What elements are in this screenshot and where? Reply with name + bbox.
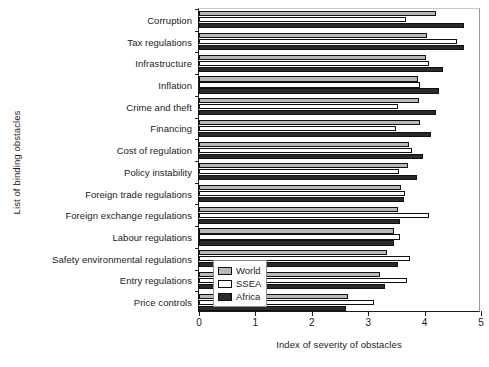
legend-entry-africa: Africa (218, 290, 261, 303)
bar-africa (199, 175, 417, 180)
bar-ssea (199, 234, 400, 239)
bar-ssea (199, 61, 429, 66)
y-axis-tick (195, 118, 200, 119)
y-axis-tick-label: Safety environmental regulations (52, 253, 192, 264)
y-axis-tick-label: Policy instability (124, 166, 192, 177)
category-row: Financing (199, 118, 479, 140)
bar-world (199, 11, 436, 16)
y-axis-tick (195, 270, 200, 271)
y-axis-tick-label: Labour regulations (112, 231, 192, 242)
bar-world (199, 33, 427, 38)
category-row: Labour regulations (199, 226, 479, 248)
legend-entry-ssea: SSEA (218, 277, 261, 290)
bar-africa (199, 219, 400, 224)
x-axis-tick-label: 3 (365, 317, 371, 328)
bar-ssea (199, 169, 399, 174)
y-axis-tick (195, 161, 200, 162)
bar-world (199, 142, 409, 147)
legend-label: Africa (236, 291, 260, 302)
bar-ssea (199, 213, 429, 218)
x-axis-tick-label: 2 (309, 317, 315, 328)
category-row: Tax regulations (199, 31, 479, 53)
bar-ssea (199, 148, 412, 153)
y-axis-tick-label: Inflation (158, 79, 192, 90)
bar-world (199, 185, 401, 190)
legend-label: SSEA (236, 278, 261, 289)
bar-world (199, 55, 426, 60)
category-row: Foreign exchange regulations (199, 204, 479, 226)
y-axis-tick-label: Crime and theft (126, 101, 192, 112)
y-axis-tick (195, 74, 200, 75)
bar-africa (199, 154, 423, 159)
bar-world (199, 228, 394, 233)
x-axis-tick (368, 311, 369, 316)
y-axis-tick-label: Financing (150, 123, 192, 134)
category-row: Inflation (199, 74, 479, 96)
legend-swatch-africa-icon (218, 293, 232, 301)
category-row: Foreign trade regulations (199, 183, 479, 205)
bar-ssea (199, 126, 396, 131)
bar-africa (199, 67, 443, 72)
bar-world (199, 250, 387, 255)
y-axis-tick-label: Price controls (134, 297, 192, 308)
legend-swatch-world-icon (218, 267, 232, 275)
y-axis-tick-label: Foreign exchange regulations (65, 210, 192, 221)
x-axis-tick-label: 0 (196, 317, 202, 328)
x-axis-tick (312, 311, 313, 316)
x-axis-tick (199, 311, 200, 316)
bar-africa (199, 88, 439, 93)
x-axis-tick-label: 1 (253, 317, 259, 328)
bar-world (199, 120, 420, 125)
category-row: Crime and theft (199, 96, 479, 118)
bar-world (199, 98, 419, 103)
bar-ssea (199, 39, 457, 44)
category-row: Infrastructure (199, 52, 479, 74)
chart-figure: List of binding obstacles CorruptionTax … (0, 0, 489, 367)
y-axis-tick (195, 96, 200, 97)
x-axis-tick-label: 4 (422, 317, 428, 328)
bar-world (199, 163, 408, 168)
y-axis-tick (195, 52, 200, 53)
bar-ssea (199, 82, 420, 87)
category-row: Policy instability (199, 161, 479, 183)
bar-africa (199, 45, 464, 50)
y-axis-tick (195, 204, 200, 205)
y-axis-tick (195, 248, 200, 249)
y-axis-tick-label: Cost of regulation (117, 145, 192, 156)
bar-africa (199, 110, 436, 115)
y-axis-title: List of binding obstacles (11, 93, 22, 233)
y-axis-tick-label: Corruption (147, 14, 192, 25)
bar-ssea (199, 17, 406, 22)
legend-entry-world: World (218, 264, 261, 277)
chart-legend: WorldSSEAAfrica (213, 260, 267, 307)
y-axis-tick (195, 31, 200, 32)
bar-africa (199, 132, 431, 137)
x-axis-tick (425, 311, 426, 316)
y-axis-tick-label: Infrastructure (135, 58, 192, 69)
bar-world (199, 76, 418, 81)
y-axis-tick (195, 183, 200, 184)
bar-ssea (199, 191, 405, 196)
y-axis-tick (195, 139, 200, 140)
y-axis-tick-label: Entry regulations (120, 275, 192, 286)
bar-africa (199, 197, 404, 202)
y-axis-tick (195, 9, 200, 10)
bar-world (199, 207, 398, 212)
bar-africa (199, 23, 464, 28)
bar-africa (199, 240, 394, 245)
x-axis-title: Index of severity of obstacles (198, 339, 480, 350)
x-axis-tick (255, 311, 256, 316)
legend-swatch-ssea-icon (218, 280, 232, 288)
y-axis-tick (195, 226, 200, 227)
bar-ssea (199, 104, 398, 109)
y-axis-tick (195, 291, 200, 292)
y-axis-tick-label: Foreign trade regulations (85, 188, 192, 199)
x-axis-tick (481, 311, 482, 316)
x-axis-tick-label: 5 (478, 317, 484, 328)
category-row: Corruption (199, 9, 479, 31)
legend-label: World (236, 265, 261, 276)
y-axis-tick-label: Tax regulations (127, 36, 192, 47)
category-row: Cost of regulation (199, 139, 479, 161)
